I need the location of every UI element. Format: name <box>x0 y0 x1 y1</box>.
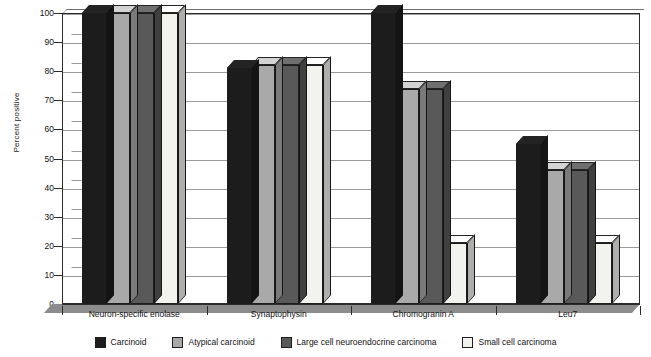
x-tick-separator <box>640 306 641 315</box>
legend-swatch <box>172 337 183 348</box>
bar-series-container <box>62 13 640 304</box>
legend-label: Small cell carcinoma <box>478 337 556 347</box>
figure-caption <box>0 349 651 357</box>
y-tick-label-30: 30 <box>0 212 54 222</box>
bar-side-face <box>154 4 162 304</box>
legend-label: Atypical carcinoid <box>188 337 254 347</box>
y-tick-mark-30 <box>54 217 62 218</box>
bar-side-face <box>178 4 186 304</box>
bar-side-face <box>106 4 114 304</box>
legend-item[interactable]: Atypical carcinoid <box>172 337 254 348</box>
y-tick-label-60: 60 <box>0 124 54 134</box>
bar-side-face <box>323 57 331 304</box>
y-axis-title: Percent positive <box>12 63 21 183</box>
legend-swatch <box>281 337 292 348</box>
y-tick-label-90: 90 <box>0 37 54 47</box>
bar-side-face <box>443 80 451 304</box>
chart-baseline <box>62 304 640 305</box>
y-tick-mark-100 <box>54 13 62 14</box>
bar-chart: Percent positive 0102030405060708090100 … <box>0 0 651 357</box>
bar-face <box>371 13 395 304</box>
y-tick-mark-50 <box>54 159 62 160</box>
bar <box>227 68 251 304</box>
y-tick-mark-20 <box>54 246 62 247</box>
y-tick-label-20: 20 <box>0 241 54 251</box>
y-tick-mark-90 <box>54 42 62 43</box>
x-tick-label: Chromogranin A <box>351 309 496 319</box>
bar-side-face <box>540 135 548 304</box>
bar-group <box>227 13 323 304</box>
y-tick-mark-60 <box>54 129 62 130</box>
x-tick-label: Neuron-specific enolase <box>62 309 207 319</box>
bar-side-face <box>275 57 283 304</box>
x-tick-label: Leu7 <box>496 309 641 319</box>
legend-label: Carcinoid <box>111 337 147 347</box>
y-tick-mark-10 <box>54 275 62 276</box>
bar-group <box>82 13 178 304</box>
bar-face <box>227 68 251 304</box>
bar-side-face <box>564 161 572 304</box>
bar-side-face <box>467 234 475 304</box>
bar-face <box>82 13 106 304</box>
legend-swatch <box>462 337 473 348</box>
bar-side-face <box>251 59 259 304</box>
bar-side-face <box>299 57 307 304</box>
y-tick-mark-70 <box>54 100 62 101</box>
legend-item[interactable]: Small cell carcinoma <box>462 337 556 348</box>
bar-group <box>516 13 612 304</box>
y-tick-mark-80 <box>54 71 62 72</box>
bar-side-face <box>130 4 138 304</box>
y-tick-label-80: 80 <box>0 66 54 76</box>
legend-item[interactable]: Large cell neuroendocrine carcinoma <box>281 337 437 348</box>
y-tick-label-70: 70 <box>0 95 54 105</box>
bar-side-face <box>395 4 403 304</box>
y-tick-mark-40 <box>54 188 62 189</box>
y-tick-label-40: 40 <box>0 183 54 193</box>
y-tick-label-0: 0 <box>0 299 54 309</box>
bar-face <box>516 144 540 304</box>
bar <box>82 13 106 304</box>
bar-side-face <box>419 80 427 304</box>
bar <box>371 13 395 304</box>
y-tick-label-50: 50 <box>0 154 54 164</box>
legend-swatch <box>95 337 106 348</box>
bar-side-face <box>588 161 596 304</box>
x-tick-separator <box>62 306 63 315</box>
y-tick-label-10: 10 <box>0 270 54 280</box>
legend-item[interactable]: Carcinoid <box>95 337 147 348</box>
bar-group <box>371 13 467 304</box>
y-tick-label-100: 100 <box>0 8 54 18</box>
bar <box>516 144 540 304</box>
legend-label: Large cell neuroendocrine carcinoma <box>297 337 437 347</box>
bar-side-face <box>612 234 620 304</box>
x-tick-label: Synaptophysin <box>207 309 352 319</box>
